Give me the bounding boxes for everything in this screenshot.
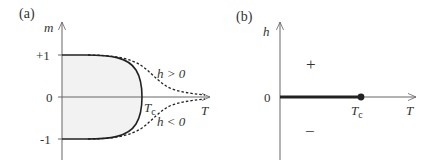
y-axis-label-h: h [263, 24, 270, 39]
panel-b-label: (b) [236, 9, 253, 25]
x-axis-label-t: T [201, 103, 209, 118]
panel-b-phase-diagram: (b) h 0 + − Tc T [236, 9, 416, 160]
tick-label-zero: 0 [264, 90, 271, 105]
region-minus-label: − [305, 122, 315, 141]
y-axis-label-m: m [44, 20, 53, 35]
panel-a-label: (a) [19, 6, 35, 22]
critical-temperature-label: Tc [144, 100, 156, 117]
x-axis-label-t: T [406, 103, 414, 118]
tick-label-minus-one: -1 [40, 132, 51, 147]
phase-diagram-figure: (a) m +1 0 -1 T Tc h > 0 h < 0 (b) h 0 +… [0, 0, 432, 164]
tick-label-plus-one: +1 [36, 48, 50, 63]
label-h-positive: h > 0 [157, 66, 186, 81]
critical-point-dot [358, 94, 365, 101]
critical-temperature-label: Tc [351, 103, 363, 120]
region-plus-label: + [306, 55, 316, 74]
panel-a-magnetization-plot: (a) m +1 0 -1 T Tc h > 0 h < 0 [19, 6, 210, 160]
label-h-negative: h < 0 [157, 114, 186, 129]
tick-label-zero: 0 [46, 90, 53, 105]
